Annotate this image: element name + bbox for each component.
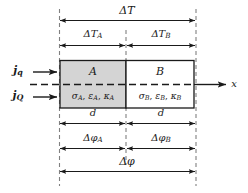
label-delta-phi-b-subscript: B — [165, 135, 170, 144]
label-delta-t-b: ΔTB — [151, 29, 170, 40]
label-flux-charge: jQ — [13, 90, 24, 103]
label-delta-t: ΔT — [119, 5, 134, 16]
label-flux-heat: jq — [13, 65, 23, 78]
label-delta-t-a: ΔTA — [83, 29, 102, 40]
label-x-axis: x — [231, 79, 237, 89]
label-flux-heat-subscript: q — [17, 68, 23, 77]
label-region-a-properties: σA, εA, κA — [72, 92, 114, 102]
label-delta-t-a-subscript: A — [97, 31, 102, 40]
label-region-a: A — [89, 66, 97, 77]
label-region-b-properties: σB, εB, κB — [139, 92, 182, 102]
label-flux-charge-subscript: Q — [17, 93, 24, 102]
label-thickness-a: d — [90, 108, 96, 118]
label-delta-t-b-subscript: B — [165, 31, 170, 40]
label-region-b: B — [156, 66, 164, 77]
label-delta-phi: Δφ — [119, 156, 135, 167]
label-delta-phi-b: ΔφB — [151, 133, 171, 144]
label-delta-phi-a: ΔφA — [83, 133, 102, 144]
figure-canvas: ΔT ΔTA ΔTB jq jQ A B σA, εA, κA σB, εB, … — [0, 0, 248, 193]
label-delta-phi-a-subscript: A — [98, 135, 103, 144]
label-thickness-b: d — [158, 108, 164, 118]
